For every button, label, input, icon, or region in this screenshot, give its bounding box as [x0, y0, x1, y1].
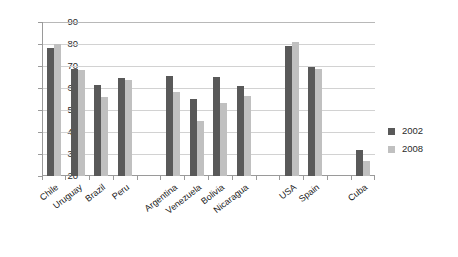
bar-uruguay-2008: [78, 70, 85, 176]
bar-spain-2008: [315, 69, 322, 176]
bar-nicaragua-2002: [237, 86, 244, 176]
legend-item-2008[interactable]: 2008: [388, 140, 423, 158]
bar-group-spain: [304, 22, 328, 176]
bar-cuba-2002: [356, 150, 363, 176]
bar-chart: 9080706050403020 ChileUruguayBrazilPeruA…: [0, 0, 458, 257]
bar-usa-2002: [285, 46, 292, 176]
bar-bolivia-2002: [213, 77, 220, 176]
bar-group-usa: [280, 22, 304, 176]
bar-group-bolivia: [208, 22, 232, 176]
bar-groups: [42, 22, 375, 176]
x-label-cell-2: Brazil: [90, 180, 114, 240]
bar-cuba-2008: [363, 161, 370, 176]
x-label-cell-9: [256, 180, 280, 240]
x-label-cell-3: Peru: [113, 180, 137, 240]
bar-spain-2002: [308, 67, 315, 176]
bar-group-spacer: [327, 22, 351, 176]
bar-group-venezuela: [185, 22, 209, 176]
x-axis-label-usa: USA: [277, 182, 298, 201]
bar-usa-2008: [292, 42, 299, 176]
bar-group-cuba: [351, 22, 375, 176]
bar-brazil-2008: [101, 97, 108, 176]
bar-nicaragua-2008: [244, 96, 251, 176]
bar-chile-2008: [54, 44, 61, 176]
x-label-cell-11: Spain: [304, 180, 328, 240]
x-label-cell-0: Chile: [42, 180, 66, 240]
bar-brazil-2002: [94, 85, 101, 176]
bar-uruguay-2002: [71, 69, 78, 176]
bar-group-uruguay: [66, 22, 90, 176]
bar-group-peru: [113, 22, 137, 176]
bar-venezuela-2008: [197, 121, 204, 176]
bar-argentina-2002: [166, 76, 173, 176]
x-label-cell-1: Uruguay: [66, 180, 90, 240]
x-label-cell-8: Nicaragua: [232, 180, 256, 240]
x-label-cell-12: [327, 180, 351, 240]
bar-peru-2008: [125, 80, 132, 176]
bar-group-spacer: [256, 22, 280, 176]
bar-group-chile: [42, 22, 66, 176]
bar-peru-2002: [118, 78, 125, 176]
x-axis-label-peru: Peru: [110, 182, 131, 202]
x-label-cell-6: Venezuela: [185, 180, 209, 240]
bar-bolivia-2008: [220, 103, 227, 176]
x-axis-category-labels: ChileUruguayBrazilPeruArgentinaVenezuela…: [42, 180, 375, 240]
bar-group-nicaragua: [232, 22, 256, 176]
bar-group-spacer: [137, 22, 161, 176]
bar-group-brazil: [90, 22, 114, 176]
chart-legend: 20022008: [388, 122, 423, 158]
x-label-cell-10: USA: [280, 180, 304, 240]
legend-label-2002: 2002: [402, 126, 423, 136]
legend-item-2002[interactable]: 2002: [388, 122, 423, 140]
legend-label-2008: 2008: [402, 144, 423, 154]
bar-argentina-2008: [173, 92, 180, 176]
bar-group-argentina: [161, 22, 185, 176]
bar-chile-2002: [47, 48, 54, 176]
legend-swatch-2008: [388, 146, 395, 153]
bar-venezuela-2002: [190, 99, 197, 176]
x-label-cell-13: Cuba: [351, 180, 375, 240]
legend-swatch-2002: [388, 128, 395, 135]
